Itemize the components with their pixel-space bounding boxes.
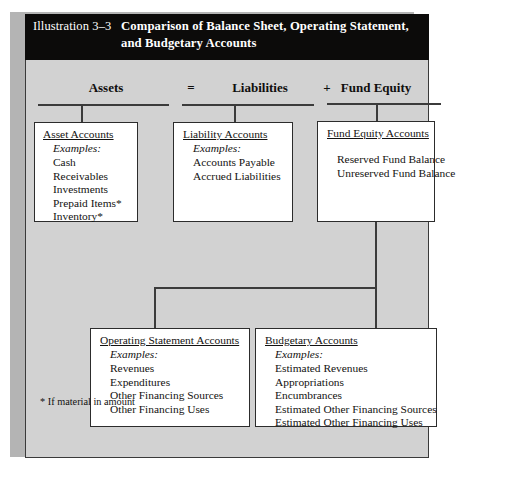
- list-item: Estimated Other Financing Sources: [275, 403, 437, 417]
- box-budgetary-accounts: Budgetary Accounts Examples: Estimated R…: [255, 328, 437, 427]
- box-list-operating-statement-accounts: Revenues Expenditures Other Financing So…: [110, 362, 223, 416]
- list-item: Estimated Other Financing Uses: [275, 416, 437, 430]
- box-title-asset-accounts: Asset Accounts: [43, 128, 114, 140]
- box-list-fund-equity-accounts: Reserved Fund Balance Unreserved Fund Ba…: [337, 153, 455, 180]
- list-item: Encumbrances: [275, 389, 437, 403]
- list-item: Prepaid Items*: [53, 197, 122, 211]
- box-fund-equity-accounts: Fund Equity Accounts Reserved Fund Balan…: [317, 121, 435, 222]
- box-asset-accounts: Asset Accounts Examples: Cash Receivable…: [34, 122, 138, 222]
- box-liability-accounts: Liability Accounts Examples: Accounts Pa…: [173, 122, 293, 222]
- list-item: Accounts Payable: [193, 156, 281, 170]
- box-examples-label-operating-statement-accounts: Examples:: [110, 348, 158, 360]
- tick-assets: [81, 104, 83, 123]
- box-list-liability-accounts: Accounts Payable Accrued Liabilities: [193, 156, 281, 183]
- list-item: Estimated Revenues: [275, 362, 437, 376]
- rule-fund-equity: [327, 103, 441, 105]
- list-item: Accrued Liabilities: [193, 170, 281, 184]
- box-title-fund-equity-accounts: Fund Equity Accounts: [327, 127, 429, 139]
- box-operating-statement-accounts: Operating Statement Accounts Examples: R…: [90, 328, 250, 427]
- rule-assets: [38, 104, 169, 106]
- connector-vertical-fund-equity: [375, 222, 377, 288]
- figure-footnote: * If material in amount: [40, 396, 135, 407]
- figure-title-bar: Illustration 3–3 Comparison of Balance S…: [25, 14, 429, 60]
- rule-liabilities: [182, 104, 314, 106]
- column-heading-assets: Assets: [36, 80, 176, 96]
- list-item: Inventory*: [53, 210, 122, 224]
- box-list-budgetary-accounts: Estimated Revenues Appropriations Encumb…: [275, 362, 437, 430]
- list-item: Cash: [53, 156, 122, 170]
- tick-liabilities: [234, 104, 236, 123]
- list-item: Expenditures: [110, 376, 223, 390]
- tick-fund-equity: [376, 103, 378, 123]
- figure-label: Illustration 3–3: [33, 19, 111, 34]
- box-list-asset-accounts: Cash Receivables Investments Prepaid Ite…: [53, 156, 122, 224]
- box-title-operating-statement-accounts: Operating Statement Accounts: [100, 334, 239, 346]
- connector-vertical-budgetary: [375, 287, 377, 329]
- list-item: Revenues: [110, 362, 223, 376]
- figure-title-line-1: Comparison of Balance Sheet, Operating S…: [121, 18, 421, 35]
- illustration-figure: Illustration 3–3 Comparison of Balance S…: [25, 14, 429, 459]
- connector-vertical-operating-statement: [154, 287, 156, 329]
- figure-title: Comparison of Balance Sheet, Operating S…: [121, 18, 421, 52]
- list-item: Receivables: [53, 170, 122, 184]
- box-title-budgetary-accounts: Budgetary Accounts: [265, 334, 358, 346]
- figure-title-line-2: and Budgetary Accounts: [121, 35, 421, 52]
- list-item: Appropriations: [275, 376, 437, 390]
- column-heading-fund-equity: Fund Equity: [326, 80, 426, 96]
- box-title-liability-accounts: Liability Accounts: [183, 128, 267, 140]
- box-examples-label-budgetary-accounts: Examples:: [275, 348, 323, 360]
- list-item: Investments: [53, 183, 122, 197]
- figure-body-panel: Assets = Liabilities + Fund Equity Asset…: [25, 60, 429, 458]
- box-examples-label-asset-accounts: Examples:: [53, 142, 101, 154]
- list-item: Reserved Fund Balance: [337, 153, 455, 167]
- connector-horizontal-main: [154, 287, 377, 289]
- box-examples-label-liability-accounts: Examples:: [193, 142, 241, 154]
- list-item: Unreserved Fund Balance: [337, 167, 455, 181]
- column-heading-liabilities: Liabilities: [198, 80, 322, 96]
